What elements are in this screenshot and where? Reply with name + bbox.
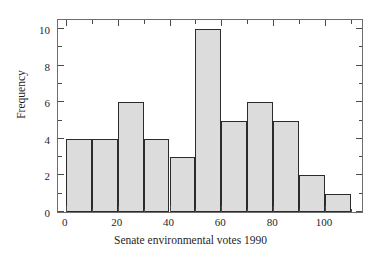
histogram-bar — [144, 139, 170, 212]
axis-tick — [66, 206, 67, 212]
y-axis-title: Frequency — [15, 35, 28, 155]
axis-tick — [195, 20, 196, 24]
axis-tick — [195, 209, 196, 213]
axis-tick — [118, 20, 119, 26]
axis-tick — [299, 209, 300, 213]
axis-tick — [58, 138, 64, 139]
axis-tick — [356, 174, 362, 175]
axis-tick — [247, 209, 248, 213]
axis-tick — [170, 20, 171, 26]
axis-tick — [58, 211, 64, 212]
x-tick-label: 20 — [111, 216, 122, 228]
histogram-bar — [273, 121, 299, 213]
axis-tick — [92, 20, 93, 24]
axis-tick — [221, 206, 222, 212]
axis-tick — [118, 206, 119, 212]
axis-tick — [359, 120, 363, 121]
axis-tick — [273, 20, 274, 26]
y-tick-label: 2 — [0, 170, 50, 182]
axis-tick — [58, 28, 64, 29]
histogram-bar — [325, 194, 351, 212]
axis-tick — [170, 206, 171, 212]
axis-tick — [58, 101, 64, 102]
bars-layer — [58, 20, 362, 212]
axis-tick — [58, 83, 62, 84]
axis-tick — [92, 209, 93, 213]
x-tick-label: 0 — [62, 216, 68, 228]
axis-tick — [359, 193, 363, 194]
histogram-chart: 020406080100 0246810 Senate environmenta… — [0, 0, 381, 259]
axis-tick — [58, 120, 62, 121]
axis-tick — [325, 206, 326, 212]
histogram-bar — [247, 102, 273, 212]
x-axis-title: Senate environmental votes 1990 — [0, 234, 381, 247]
x-tick-label: 40 — [163, 216, 174, 228]
axis-tick — [58, 65, 64, 66]
axis-tick — [356, 101, 362, 102]
histogram-bar — [195, 29, 221, 212]
axis-tick — [356, 28, 362, 29]
histogram-bar — [221, 121, 247, 213]
axis-tick — [247, 20, 248, 24]
y-tick-label: 0 — [0, 207, 50, 219]
axis-tick — [356, 138, 362, 139]
axis-tick — [273, 206, 274, 212]
axis-tick — [221, 20, 222, 26]
x-tick-label: 60 — [215, 216, 226, 228]
axis-tick — [299, 20, 300, 24]
axis-tick — [144, 20, 145, 24]
plot-area — [57, 19, 363, 213]
axis-tick — [58, 46, 62, 47]
axis-tick — [359, 156, 363, 157]
axis-tick — [356, 65, 362, 66]
x-tick-label: 100 — [316, 216, 333, 228]
histogram-bar — [170, 157, 196, 212]
histogram-bar — [299, 175, 325, 212]
axis-tick — [66, 20, 67, 26]
axis-tick — [58, 156, 62, 157]
axis-tick — [58, 174, 64, 175]
histogram-bar — [92, 139, 118, 212]
axis-tick — [325, 20, 326, 26]
axis-tick — [58, 193, 62, 194]
axis-tick — [144, 209, 145, 213]
histogram-bar — [66, 139, 92, 212]
x-tick-label: 80 — [267, 216, 278, 228]
axis-tick — [351, 209, 352, 213]
axis-tick — [356, 211, 362, 212]
axis-tick — [359, 46, 363, 47]
histogram-bar — [118, 102, 144, 212]
axis-tick — [351, 20, 352, 24]
axis-tick — [359, 83, 363, 84]
